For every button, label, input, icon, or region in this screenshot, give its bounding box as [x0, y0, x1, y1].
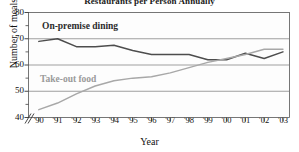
axis-break-mark-1: [25, 114, 31, 124]
series-label-take-out-food: Take-out food: [40, 74, 96, 84]
series-label-on-premise-dining: On-premise dining: [42, 21, 118, 31]
chart-container: Restaurants per Person Annually Number o…: [0, 0, 299, 152]
